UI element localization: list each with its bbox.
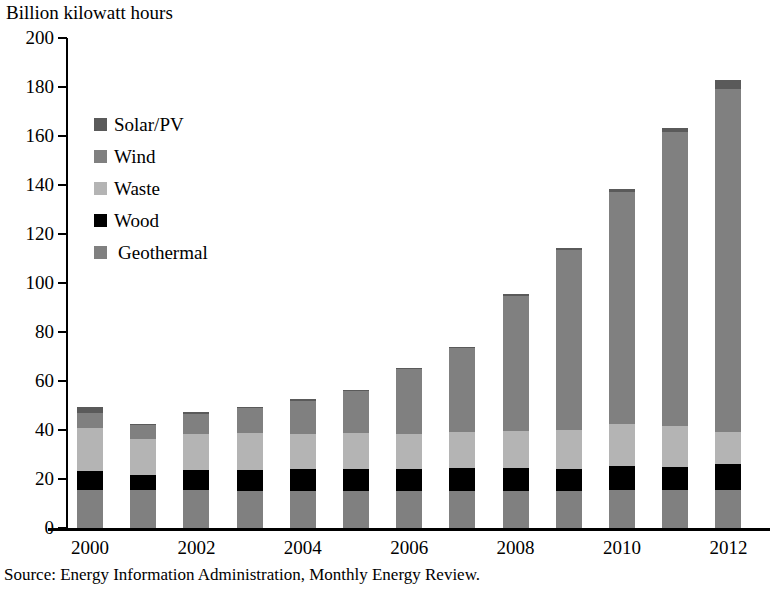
bar-2010 [609, 189, 635, 528]
x-axis-tick-label-2012: 2012 [688, 537, 768, 559]
bar-segment-geothermal [662, 490, 688, 528]
bar-segment-wood [130, 475, 156, 490]
legend-item-wood[interactable]: Wood [94, 204, 208, 236]
bar-segment-wind [503, 296, 529, 431]
bar-segment-wind [662, 132, 688, 426]
bar-segment-wood [556, 469, 582, 491]
y-axis-tick-label: 200 [0, 28, 54, 47]
legend-swatch-solar-pv [94, 118, 107, 131]
bar-2004 [290, 399, 316, 528]
bar-segment-wind [77, 413, 103, 428]
legend-swatch-wood [94, 214, 107, 227]
bar-segment-wood [77, 471, 103, 490]
x-axis-line [48, 528, 770, 531]
bar-segment-waste [449, 432, 475, 469]
bar-segment-geothermal [290, 491, 316, 528]
bar-segment-wood [609, 466, 635, 491]
bar-segment-wood [183, 470, 209, 490]
bar-segment-geothermal [715, 490, 741, 528]
y-axis-tick-label: 0 [0, 518, 54, 537]
bar-segment-solar-pv [77, 407, 103, 414]
legend-item-wind[interactable]: Wind [94, 140, 208, 172]
bar-2006 [396, 368, 422, 528]
y-axis-tick-label: 180 [0, 77, 54, 96]
y-axis-tick-label: 40 [0, 420, 54, 439]
legend-label-solar-pv: Solar/PV [114, 115, 184, 134]
y-axis-tick-label: 160 [0, 126, 54, 145]
bar-segment-wood [290, 469, 316, 491]
legend-item-geothermal[interactable]: Geothermal [94, 236, 208, 268]
bar-segment-geothermal [130, 490, 156, 528]
bar-2012 [715, 80, 741, 528]
source-note: Source: Energy Information Administratio… [4, 565, 480, 585]
bar-segment-wood [715, 464, 741, 490]
bar-segment-waste [503, 431, 529, 469]
bar-segment-geothermal [396, 491, 422, 528]
y-axis-tick-label: 20 [0, 469, 54, 488]
bar-2003 [237, 407, 263, 528]
bar-segment-geothermal [237, 491, 263, 528]
bar-segment-waste [556, 430, 582, 469]
bar-segment-wood [237, 470, 263, 491]
bar-segment-wind [290, 401, 316, 434]
bar-2009 [556, 248, 582, 528]
bar-segment-waste [237, 433, 263, 470]
bar-2011 [662, 128, 688, 528]
bar-2000 [77, 407, 103, 528]
x-axis-tick-label-2006: 2006 [369, 537, 449, 559]
bar-segment-wind [130, 425, 156, 438]
legend-swatch-waste [94, 182, 107, 195]
bar-segment-waste [396, 434, 422, 470]
bar-segment-wind [609, 192, 635, 424]
bar-2008 [503, 294, 529, 528]
bar-segment-wind [237, 408, 263, 433]
chart-legend: Solar/PVWindWasteWoodGeothermal [94, 108, 208, 268]
legend-item-waste[interactable]: Waste [94, 172, 208, 204]
bar-2002 [183, 412, 209, 528]
bar-segment-geothermal [503, 491, 529, 528]
bar-segment-geothermal [77, 490, 103, 528]
bar-segment-geothermal [609, 490, 635, 528]
legend-item-solar-pv[interactable]: Solar/PV [94, 108, 208, 140]
bar-segment-wood [449, 468, 475, 491]
legend-swatch-geothermal [94, 246, 107, 259]
bar-2005 [343, 390, 369, 528]
bar-segment-waste [343, 433, 369, 469]
bar-segment-geothermal [183, 490, 209, 528]
bar-segment-wind [556, 250, 582, 430]
bar-segment-wood [343, 469, 369, 492]
bar-2007 [449, 347, 475, 528]
bar-segment-wood [662, 467, 688, 490]
bar-segment-geothermal [449, 491, 475, 528]
legend-label-geothermal: Geothermal [118, 243, 208, 262]
bar-segment-wind [343, 391, 369, 433]
bar-segment-waste [290, 434, 316, 470]
y-axis-title: Billion kilowatt hours [6, 2, 173, 24]
chart-figure: Billion kilowatt hours 20018016014012010… [0, 0, 773, 590]
bar-2001 [130, 424, 156, 528]
legend-label-wood: Wood [114, 211, 159, 230]
bar-segment-wind [183, 414, 209, 434]
y-axis-tick-label: 80 [0, 322, 54, 341]
legend-label-waste: Waste [114, 179, 160, 198]
x-axis-tick-label-2008: 2008 [476, 537, 556, 559]
y-axis-tick-label: 120 [0, 224, 54, 243]
x-axis-tick-label-2004: 2004 [263, 537, 343, 559]
bar-segment-waste [662, 426, 688, 466]
bar-segment-wood [396, 469, 422, 491]
legend-label-wind: Wind [114, 147, 155, 166]
bar-segment-waste [77, 428, 103, 471]
legend-swatch-wind [94, 150, 107, 163]
y-axis-tick-label: 100 [0, 273, 54, 292]
x-axis-tick-label-2002: 2002 [156, 537, 236, 559]
bar-segment-waste [609, 424, 635, 466]
bar-segment-waste [130, 439, 156, 476]
x-axis-tick-label-2010: 2010 [582, 537, 662, 559]
bar-segment-solar-pv [715, 80, 741, 90]
bar-segment-wind [449, 348, 475, 431]
bar-segment-geothermal [343, 491, 369, 528]
bar-segment-waste [183, 434, 209, 471]
x-axis-tick-label-2000: 2000 [50, 537, 130, 559]
bar-segment-wind [715, 89, 741, 432]
y-axis-tick-label: 140 [0, 175, 54, 194]
